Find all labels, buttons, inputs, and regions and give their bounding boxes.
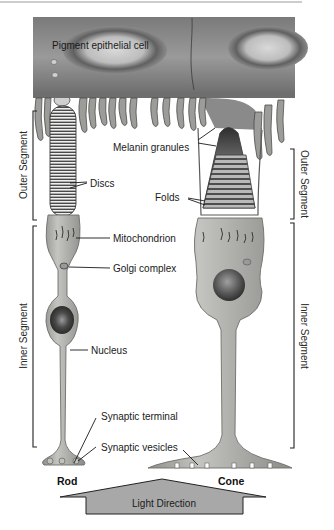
right-inner-segment-label: Inner Segment [299,303,310,369]
right-outer-segment-bracket [290,149,294,219]
discs-label: Discs [90,178,114,189]
light-direction-label: Light Direction [132,498,196,509]
synaptic-vesicles-label: Synaptic vesicles [101,442,178,453]
rod-cone-diagram: Outer Segment Inner Segment Outer Segmen… [0,0,334,530]
left-inner-segment-label: Inner Segment [18,303,29,369]
left-outer-segment-label: Outer Segment [18,131,29,199]
cone-label: Cone [218,475,244,487]
rod-label: Rod [57,475,77,487]
pigment-epithelial-cell-label: Pigment epithelial cell [52,40,149,51]
mitochondrion-label: Mitochondrion [113,233,176,244]
right-outer-segment-label: Outer Segment [299,150,310,218]
left-inner-segment-bracket [33,226,37,447]
melanin-granules-label: Melanin granules [113,142,189,153]
right-inner-segment-bracket [290,223,294,448]
golgi-complex-label: Golgi complex [113,263,176,274]
folds-label: Folds [155,192,179,203]
rod-cell [43,106,85,465]
nucleus-label: Nucleus [91,345,127,356]
synaptic-terminal-label: Synaptic terminal [101,411,178,422]
